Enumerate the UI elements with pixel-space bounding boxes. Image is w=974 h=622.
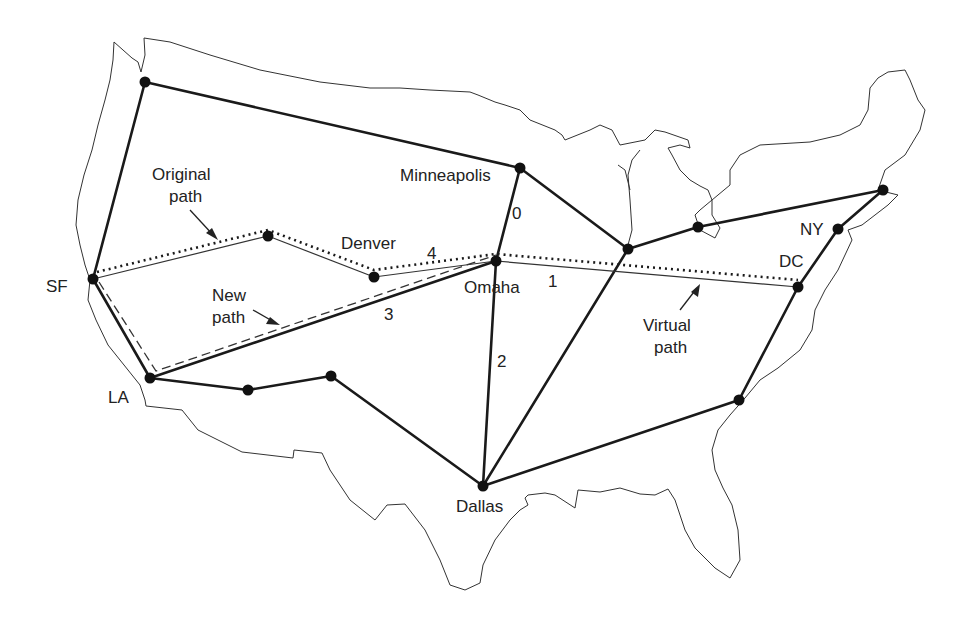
link-label-0: 0 — [512, 204, 521, 223]
node-dallas[interactable] — [478, 481, 489, 492]
original-path-line — [97, 230, 798, 280]
label-omaha: Omaha — [464, 278, 520, 297]
node-boston[interactable] — [878, 185, 889, 196]
label-ny: NY — [800, 220, 824, 239]
node-ny[interactable] — [833, 224, 844, 235]
label-la: LA — [108, 388, 129, 407]
label-denver: Denver — [341, 234, 396, 253]
label-minneapolis: Minneapolis — [400, 166, 491, 185]
network-map: SF LA Denver Omaha Minneapolis Dallas NY… — [0, 0, 974, 622]
node-dc[interactable] — [793, 282, 804, 293]
node-phoenix[interactable] — [243, 385, 254, 396]
node-atlanta[interactable] — [734, 395, 745, 406]
label-dallas: Dallas — [456, 497, 503, 516]
lake-michigan-outline — [618, 150, 640, 245]
node-chicago[interactable] — [623, 244, 634, 255]
original-path-label-line2: path — [169, 187, 202, 206]
node-detroit[interactable] — [693, 222, 704, 233]
link-label-4: 4 — [427, 244, 436, 263]
node-la[interactable] — [145, 373, 156, 384]
node-denver[interactable] — [369, 272, 380, 283]
node-seattle[interactable] — [140, 77, 151, 88]
node-omaha[interactable] — [491, 256, 502, 267]
link-label-2: 2 — [497, 352, 506, 371]
label-dc: DC — [779, 252, 804, 271]
link-label-1: 1 — [548, 272, 557, 291]
node-salt-lake[interactable] — [263, 231, 274, 242]
label-sf: SF — [46, 277, 68, 296]
link-label-3: 3 — [384, 305, 393, 324]
node-sf[interactable] — [88, 274, 99, 285]
new-path-line — [99, 255, 496, 371]
node-albuquerque[interactable] — [326, 371, 337, 382]
virtual-path-label-line1: Virtual — [643, 316, 691, 335]
new-path-label-line2: path — [212, 308, 245, 327]
original-path-label-line1: Original — [152, 165, 211, 184]
node-minneapolis[interactable] — [515, 163, 526, 174]
new-path-label-line1: New — [212, 286, 247, 305]
virtual-path-label-line2: path — [654, 338, 687, 357]
